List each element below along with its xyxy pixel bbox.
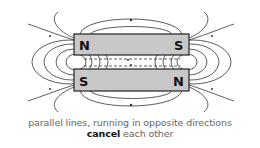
bottom-magnet bbox=[74, 69, 189, 91]
bottom-left-pole: S bbox=[79, 74, 88, 89]
magnetic-field-diagram: N S S N bbox=[0, 0, 260, 115]
caption-rest: each other bbox=[120, 128, 173, 139]
caption-bold-word: cancel bbox=[87, 128, 121, 139]
top-right-pole: S bbox=[174, 38, 183, 53]
field-lines bbox=[28, 12, 234, 112]
arrow-dots bbox=[49, 19, 213, 106]
caption-line-2: cancel each other bbox=[0, 128, 260, 139]
top-magnet bbox=[74, 34, 189, 55]
top-left-pole: N bbox=[79, 38, 90, 53]
caption-line-1: parallel lines, running in opposite dire… bbox=[0, 117, 260, 128]
bottom-right-pole: N bbox=[173, 74, 184, 89]
